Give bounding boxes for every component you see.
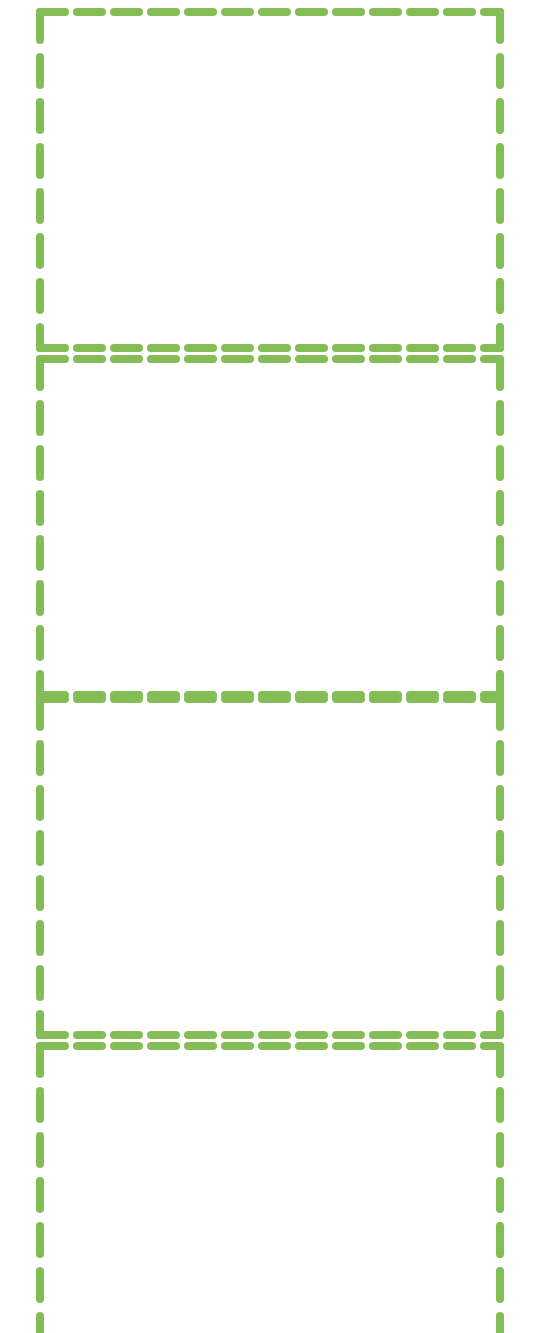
dashed-region-overlay-canvas [0,0,544,1333]
region-overlay-svg [0,0,544,1333]
regions-group [40,12,500,1333]
